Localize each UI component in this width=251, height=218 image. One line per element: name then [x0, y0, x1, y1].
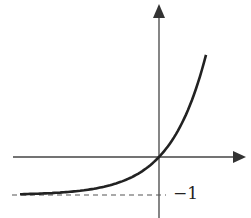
y-axis-arrow-icon	[153, 4, 165, 18]
graph: −1	[0, 0, 251, 218]
plot-area	[0, 0, 251, 218]
function-curve	[20, 55, 206, 194]
x-axis-arrow-icon	[233, 151, 246, 163]
asymptote-label: −1	[173, 183, 198, 203]
